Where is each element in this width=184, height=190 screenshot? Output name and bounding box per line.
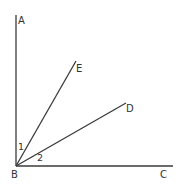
label-a: A bbox=[18, 15, 25, 26]
ray-be bbox=[16, 61, 76, 166]
ray-bd bbox=[16, 103, 126, 166]
angle-1-label: 1 bbox=[18, 141, 24, 152]
label-c: C bbox=[160, 169, 167, 180]
label-d: D bbox=[126, 103, 134, 114]
label-b: B bbox=[11, 169, 18, 180]
angle-2-label: 2 bbox=[37, 152, 43, 163]
label-e: E bbox=[76, 63, 82, 74]
angle-diagram: A E D B C 1 2 bbox=[0, 0, 184, 190]
